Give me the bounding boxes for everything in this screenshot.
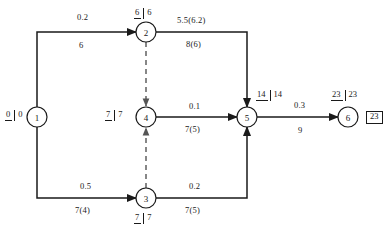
node-5-early-time: 14 — [256, 90, 268, 101]
edge-3-to-5 — [156, 127, 247, 198]
network-diagram: 1 2 3 4 5 6 0.2 6 5.5(6.2) 8(6) 0.1 7(5)… — [0, 0, 389, 235]
node-2-label: 2 — [144, 28, 149, 38]
node-3-early-time: 7 — [134, 213, 141, 224]
edge-2-to-5-upper-label: 5.5(6.2) — [177, 16, 206, 25]
node-2-early-time: 6 — [134, 8, 141, 19]
node-1-label: 1 — [35, 113, 40, 123]
node-6-early-time: 23 — [331, 90, 343, 101]
node-1-late-time: 0 — [17, 110, 23, 120]
node-3-late-time: 7 — [146, 213, 152, 223]
edge-1-to-2 — [37, 32, 136, 107]
node-6-time-pair: 23 23 — [331, 90, 358, 101]
node-5-pair-divider — [270, 90, 271, 101]
node-3-label: 3 — [144, 194, 149, 204]
edge-1-to-2-lower-label: 6 — [79, 41, 83, 50]
node-2-time-pair: 6 6 — [134, 8, 153, 19]
node-2-late-time: 6 — [146, 8, 152, 18]
node-3-pair-divider — [143, 213, 144, 224]
project-duration-box: 23 — [366, 111, 383, 124]
node-5[interactable]: 5 — [237, 107, 257, 127]
edge-4-to-5-lower-label: 7(5) — [185, 125, 200, 134]
edge-3-to-5-upper-label: 0.2 — [189, 182, 200, 191]
node-1-early-time: 0 — [5, 110, 12, 121]
node-6[interactable]: 6 — [338, 107, 358, 127]
node-2-pair-divider — [143, 8, 144, 19]
edge-5-to-6-upper-label: 0.3 — [294, 101, 305, 110]
node-3-time-pair: 7 7 — [134, 213, 153, 224]
node-1-pair-divider — [14, 110, 15, 121]
edge-1-to-2-upper-label: 0.2 — [77, 13, 88, 22]
node-4-late-time: 7 — [117, 110, 123, 120]
node-5-late-time: 14 — [273, 90, 284, 100]
node-6-label: 6 — [346, 113, 351, 123]
node-3[interactable]: 3 — [136, 188, 156, 208]
edge-1-to-3-upper-label: 0.5 — [80, 182, 91, 191]
edge-2-to-5 — [156, 32, 247, 107]
node-4-pair-divider — [114, 110, 115, 121]
node-6-pair-divider — [345, 90, 346, 101]
node-2[interactable]: 2 — [136, 22, 156, 42]
node-5-label: 5 — [245, 113, 250, 123]
node-1[interactable]: 1 — [27, 107, 47, 127]
network-diagram-canvas: 1 2 3 4 5 6 — [0, 0, 389, 235]
edge-1-to-3-lower-label: 7(4) — [75, 206, 90, 215]
node-5-time-pair: 14 14 — [256, 90, 283, 101]
edge-2-to-5-lower-label: 8(6) — [186, 40, 201, 49]
node-4-label: 4 — [144, 113, 149, 123]
edge-5-to-6-lower-label: 9 — [298, 126, 302, 135]
node-1-time-pair: 0 0 — [5, 110, 24, 121]
node-4-time-pair: 7 7 — [105, 110, 124, 121]
edge-4-to-5-upper-label: 0.1 — [189, 102, 200, 111]
node-4-early-time: 7 — [105, 110, 112, 121]
node-4[interactable]: 4 — [136, 107, 156, 127]
edge-3-to-5-lower-label: 7(5) — [185, 206, 200, 215]
node-6-late-time: 23 — [348, 90, 359, 100]
